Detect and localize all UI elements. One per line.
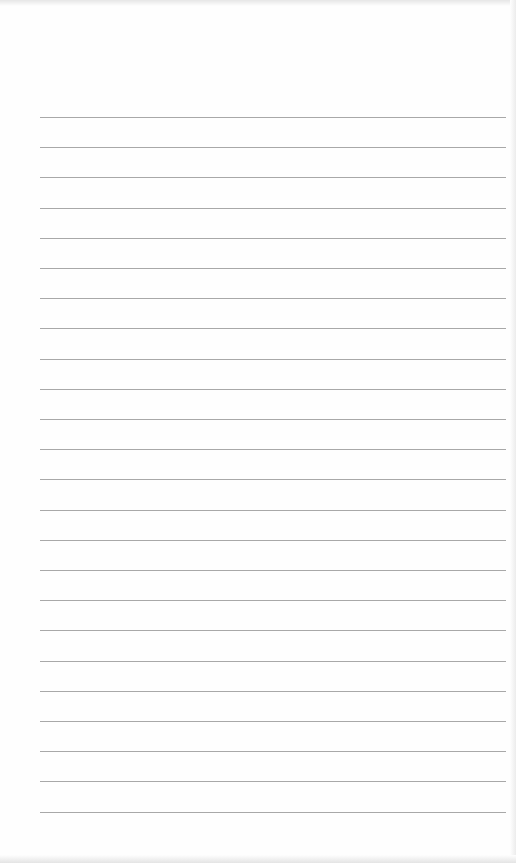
ruled-line xyxy=(40,419,506,420)
paper-bottom-edge xyxy=(0,855,516,863)
paper-right-edge xyxy=(510,0,516,863)
ruled-line xyxy=(40,268,506,269)
ruled-line xyxy=(40,479,506,480)
ruled-line xyxy=(40,691,506,692)
ruled-line xyxy=(40,208,506,209)
ruled-line xyxy=(40,630,506,631)
ruled-line xyxy=(40,781,506,782)
ruled-line xyxy=(40,117,506,118)
ruled-line xyxy=(40,540,506,541)
ruled-line xyxy=(40,298,506,299)
ruled-line xyxy=(40,812,506,813)
ruled-line xyxy=(40,389,506,390)
ruled-line xyxy=(40,510,506,511)
ruled-line xyxy=(40,600,506,601)
ruled-line xyxy=(40,661,506,662)
ruled-line xyxy=(40,751,506,752)
ruled-line xyxy=(40,147,506,148)
ruled-line xyxy=(40,177,506,178)
ruled-line xyxy=(40,721,506,722)
ruled-line xyxy=(40,238,506,239)
ruled-line xyxy=(40,449,506,450)
lined-paper-sheet xyxy=(0,0,516,863)
paper-top-edge xyxy=(0,0,516,6)
ruled-line xyxy=(40,359,506,360)
ruled-line xyxy=(40,570,506,571)
ruled-line xyxy=(40,328,506,329)
